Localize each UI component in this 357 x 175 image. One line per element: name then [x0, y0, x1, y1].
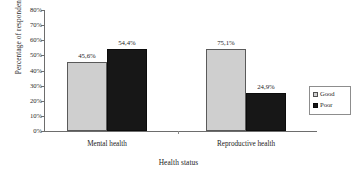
y-tick-mark [41, 116, 45, 117]
bar-mental-health-good[interactable] [67, 62, 107, 131]
bar-value-label: 75,1% [206, 40, 246, 47]
bar-value-label: 24,9% [246, 84, 286, 91]
y-tick-mark [41, 10, 45, 11]
y-tick-mark [41, 131, 45, 132]
y-tick-mark [41, 25, 45, 26]
x-category-label: Reproductive health [186, 141, 306, 148]
bar-mental-health-poor[interactable] [107, 49, 147, 131]
y-tick-mark [41, 101, 45, 102]
y-tick-mark [41, 55, 45, 56]
legend-swatch-good-icon [313, 92, 318, 97]
y-tick-mark [41, 71, 45, 72]
x-tick-mark [178, 131, 179, 134]
legend-item-good[interactable]: Good [313, 89, 348, 100]
legend-label-poor: Poor [320, 102, 332, 109]
legend-item-poor[interactable]: Poor [313, 100, 348, 111]
plot-area: 45,6%54,4%Mental health75,1%24,9%Reprodu… [0, 0, 357, 175]
y-tick-mark [41, 40, 45, 41]
bar-chart: Percentage of respondent 80%70%60%50%40%… [0, 0, 357, 175]
bar-value-label: 45,6% [67, 53, 107, 60]
x-axis-title: Health status [0, 158, 357, 167]
legend: Good Poor [309, 86, 351, 115]
y-tick-mark [41, 86, 45, 87]
bar-reproductive-health-good[interactable] [206, 49, 246, 131]
legend-swatch-poor-icon [313, 103, 318, 108]
bar-reproductive-health-poor[interactable] [246, 93, 286, 131]
bar-value-label: 54,4% [107, 40, 147, 47]
legend-label-good: Good [320, 91, 335, 98]
x-category-label: Mental health [47, 141, 167, 148]
